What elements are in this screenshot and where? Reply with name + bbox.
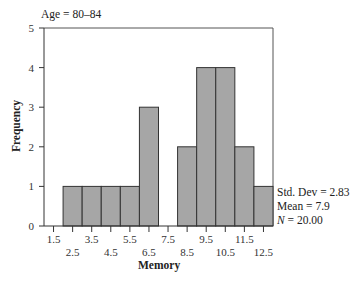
y-tick-label: 5 [29, 22, 35, 34]
x-tick-label: 12.5 [254, 246, 274, 258]
histogram-bar [216, 68, 235, 226]
x-tick-label: 4.5 [104, 246, 118, 258]
histogram-bar [101, 186, 120, 226]
x-tick-label: 2.5 [66, 246, 80, 258]
y-tick-label: 1 [29, 180, 35, 192]
x-tick-label: 6.5 [142, 246, 156, 258]
histogram-bar [120, 186, 139, 226]
mean-label: Mean = 7.9 [277, 199, 350, 213]
y-tick-label: 0 [29, 220, 35, 232]
n-label: N = 20.00 [277, 213, 350, 227]
histogram-bar [197, 68, 216, 226]
histogram-bar [254, 186, 273, 226]
x-tick-label: 3.5 [85, 233, 99, 245]
n-value: = 20.00 [285, 214, 323, 226]
plot-area: 0123451.52.53.54.55.56.57.58.59.510.511.… [0, 0, 354, 283]
x-tick-label: 7.5 [161, 233, 175, 245]
y-tick-label: 3 [29, 101, 35, 113]
histogram-bar [178, 147, 197, 226]
histogram-bar [235, 147, 254, 226]
x-axis-label: Memory [138, 259, 180, 271]
y-tick-label: 4 [29, 62, 35, 74]
chart-title: Age = 80–84 [41, 8, 101, 20]
y-tick-label: 2 [29, 141, 35, 153]
statistics-legend: Std. Dev = 2.83 Mean = 7.9 N = 20.00 [277, 185, 350, 227]
x-tick-label: 10.5 [216, 246, 236, 258]
histogram-bar [139, 107, 158, 226]
x-tick-label: 9.5 [199, 233, 213, 245]
x-tick-label: 5.5 [123, 233, 137, 245]
x-tick-label: 8.5 [180, 246, 194, 258]
y-axis-label: Frequency [10, 96, 22, 156]
std-dev-label: Std. Dev = 2.83 [277, 185, 350, 199]
x-tick-label: 1.5 [47, 233, 61, 245]
histogram-bar [82, 186, 101, 226]
x-tick-label: 11.5 [235, 233, 254, 245]
n-symbol: N [277, 214, 285, 226]
histogram-bar [63, 186, 82, 226]
